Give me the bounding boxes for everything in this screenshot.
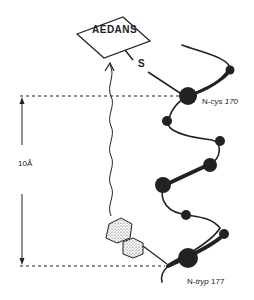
indole-ring-2 (123, 238, 143, 258)
sulfur-label: S (138, 58, 145, 69)
residue-bead (219, 229, 229, 239)
residue-bead-tryp177 (178, 248, 198, 268)
residue-number: 177 (211, 277, 224, 286)
residue-bead (215, 136, 225, 146)
helix-front-segment-2 (165, 164, 210, 185)
residue-label-cys170: N-cys 170 (202, 97, 238, 106)
linker-upper (125, 50, 133, 60)
tryp-sidechain-bond (143, 246, 167, 264)
residue-bead-cys170 (179, 87, 197, 105)
residue-number: 170 (225, 97, 238, 106)
residue-name: tryp (195, 277, 208, 286)
indole-ring-1 (106, 218, 132, 243)
residue-bead (162, 116, 172, 126)
residue-label-tryp177: N-tryp 177 (187, 277, 224, 286)
aedans-label: AEDANS (92, 24, 137, 35)
wavy-energy-transfer-arrow (110, 65, 113, 216)
wavy-arrowhead-icon (105, 63, 114, 71)
arrowhead-down-icon (20, 258, 25, 265)
residue-bead (155, 177, 171, 193)
distance-label: 10Å (18, 159, 32, 168)
residue-bead (181, 210, 191, 220)
fret-helix-diagram (0, 0, 254, 300)
arrowhead-up-icon (20, 97, 25, 104)
residue-name: cys (210, 97, 222, 106)
linker-lower (148, 72, 183, 95)
residue-bead (226, 66, 235, 75)
residue-bead (203, 158, 217, 172)
